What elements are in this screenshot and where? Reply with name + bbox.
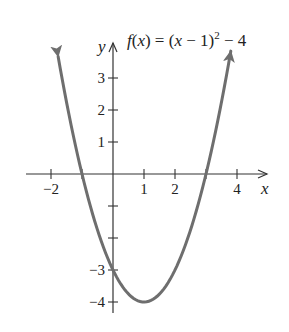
- x-tick-label: 4: [233, 181, 241, 197]
- x-axis-label: x: [260, 179, 269, 198]
- parabola-chart: −2124 321−3−4 x y f(x) = (x − 1)2 − 4: [0, 0, 289, 332]
- x-tick-label: −2: [43, 181, 59, 197]
- title-tail: − 4: [220, 31, 247, 50]
- title-mid: ) = (: [145, 31, 175, 50]
- y-tick-label: 2: [98, 102, 106, 118]
- x-tick-label: 2: [171, 181, 179, 197]
- x-tick-label: 1: [140, 181, 148, 197]
- y-tick-label: −4: [89, 294, 105, 310]
- x-tick-labels: −2124: [43, 181, 241, 197]
- y-tick-label: −3: [89, 262, 105, 278]
- y-tick-label: 1: [98, 134, 106, 150]
- function-title: f(x) = (x − 1)2 − 4: [127, 29, 247, 50]
- title-minus1: − 1): [182, 31, 214, 50]
- y-tick-labels: 321−3−4: [89, 70, 105, 310]
- y-tick-label: 3: [98, 70, 106, 86]
- y-axis-label: y: [96, 37, 106, 56]
